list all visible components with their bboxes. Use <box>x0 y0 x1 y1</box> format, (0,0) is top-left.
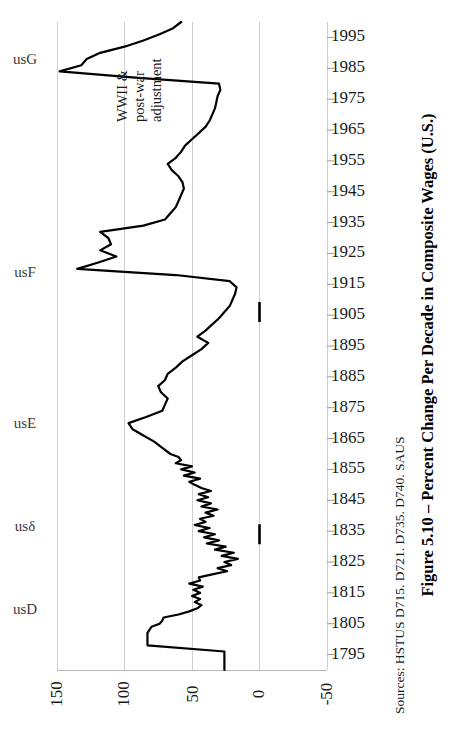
year-tick-1845: 1845 <box>331 491 365 507</box>
year-tick-1935: 1935 <box>331 214 365 230</box>
year-tick-1965: 1965 <box>331 121 365 137</box>
year-tick-1875: 1875 <box>331 399 365 415</box>
series-label-usF: usF <box>8 255 42 289</box>
year-tick-1955: 1955 <box>331 152 365 168</box>
year-tick-1995: 1995 <box>331 28 365 44</box>
year-tick-1855: 1855 <box>331 460 365 476</box>
value-tick-0: 0 <box>229 684 289 704</box>
value-tick-50: 50 <box>162 684 222 704</box>
figure-title: Figure 5.10 – Percent Change Per Decade … <box>404 0 456 743</box>
year-tick-1795: 1795 <box>331 646 365 662</box>
year-tick-1925: 1925 <box>331 244 365 260</box>
series-label-usD: usD <box>8 592 42 626</box>
series-label-usG: usG <box>8 42 42 76</box>
annotation-line-2: post-war <box>131 30 148 122</box>
year-tick-1835: 1835 <box>331 522 365 538</box>
year-tick-1975: 1975 <box>331 90 365 106</box>
value-tick-100: 100 <box>94 684 154 704</box>
year-tick-1805: 1805 <box>331 615 365 631</box>
value-tick-minus50: -50 <box>297 684 357 704</box>
year-tick-1865: 1865 <box>331 430 365 446</box>
wwii-annotation: WWII & post-war adjustment <box>52 118 120 210</box>
figure-sources-text: Sources: HSTUS D715. D721. D735. D740. S… <box>392 414 408 714</box>
year-tick-1885: 1885 <box>331 368 365 384</box>
series-label-usE: usE <box>8 406 42 440</box>
year-tick-1985: 1985 <box>331 59 365 75</box>
series-label-usδ: usδ <box>8 509 42 543</box>
year-tick-1815: 1815 <box>331 584 365 600</box>
axis-baseline <box>57 670 327 671</box>
year-tick-1945: 1945 <box>331 183 365 199</box>
value-tick-150: 150 <box>27 684 87 704</box>
year-tick-1825: 1825 <box>331 553 365 569</box>
annotation-line-3: adjustment <box>148 30 165 122</box>
figure-sources: Sources: HSTUS D715. D721. D735. D740. S… <box>378 0 402 743</box>
figure-title-text: Figure 5.10 – Percent Change Per Decade … <box>418 35 438 675</box>
year-tick-1915: 1915 <box>331 275 365 291</box>
annotation-line-1: WWII & <box>114 30 131 122</box>
year-tick-1905: 1905 <box>331 306 365 322</box>
year-tick-1895: 1895 <box>331 337 365 353</box>
